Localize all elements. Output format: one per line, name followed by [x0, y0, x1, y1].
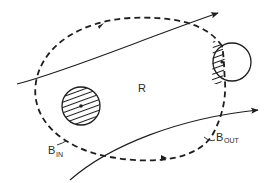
interior-hatched-circle — [60, 85, 102, 127]
streamline-bottom — [70, 110, 258, 180]
svg-text:B: B — [216, 131, 223, 143]
svg-text:IN: IN — [56, 151, 63, 158]
svg-text:B: B — [48, 144, 55, 156]
svg-text:OUT: OUT — [224, 137, 240, 144]
boundary-in-label: B IN — [48, 141, 66, 158]
center-dot-icon — [79, 104, 83, 108]
diagram-canvas: R B IN B OUT — [0, 0, 272, 183]
region-diagram: R B IN B OUT — [0, 0, 272, 183]
center-dot-icon — [220, 60, 223, 63]
region-label: R — [138, 82, 146, 94]
boundary-circle — [210, 40, 251, 86]
streamline-top — [17, 13, 218, 84]
boundary-out-label: B OUT — [204, 131, 240, 144]
region-boundary — [35, 18, 225, 161]
